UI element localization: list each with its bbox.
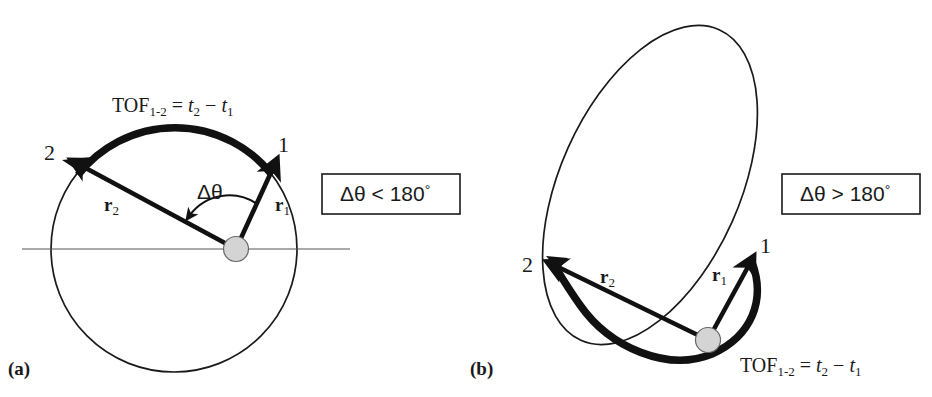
panel-tag-a: (a) xyxy=(8,358,30,380)
panel-tag-b: (b) xyxy=(470,358,493,380)
annotation-box-a: Δθ < 180° xyxy=(322,174,460,214)
transfer-arc-b xyxy=(556,262,757,360)
annotation-box-text-a: Δθ < 180° xyxy=(340,182,430,205)
point-2-label-a: 2 xyxy=(44,140,55,165)
delta-theta-label-a: Δθ xyxy=(197,180,223,203)
central-body-a xyxy=(224,237,249,262)
transfer-arc-a xyxy=(78,128,272,175)
annotation-box-text-b: Δθ > 180° xyxy=(800,182,890,205)
r1-label-b: r1 xyxy=(712,264,727,288)
tof-label-a: TOF1-2 = t2 − t1 xyxy=(112,94,233,119)
r1-label-a: r1 xyxy=(275,194,290,218)
central-body-b xyxy=(696,328,721,353)
panel-b: 2 1 r2 r1 TOF1-2 = t2 − t1 Δθ > 180° (b xyxy=(470,0,920,380)
tof-label-b: TOF1-2 = t2 − t1 xyxy=(740,354,861,379)
r2-label-b: r2 xyxy=(600,266,615,290)
orbital-transfer-diagram: TOF1-2 = t2 − t1 2 1 r2 r1 Δθ Δθ < 180° xyxy=(0,0,932,397)
point-1-label-a: 1 xyxy=(278,132,289,157)
r1-vector-a xyxy=(236,168,273,249)
point-1-label-b: 1 xyxy=(760,233,771,258)
elliptical-orbit-path xyxy=(499,0,802,377)
annotation-box-b: Δθ > 180° xyxy=(782,174,920,214)
panel-a: TOF1-2 = t2 − t1 2 1 r2 r1 Δθ Δθ < 180° xyxy=(8,94,460,380)
figure-root: TOF1-2 = t2 − t1 2 1 r2 r1 Δθ Δθ < 180° xyxy=(0,0,932,397)
point-2-label-b: 2 xyxy=(522,252,533,277)
r2-label-a: r2 xyxy=(104,194,119,218)
